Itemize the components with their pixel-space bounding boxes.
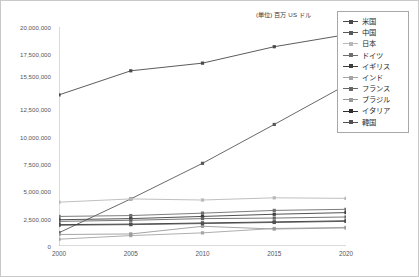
legend-item[interactable]: 日本 — [341, 38, 405, 49]
data-point — [344, 215, 346, 218]
y-tick-label: 12,500,000 — [20, 106, 51, 113]
legend-item[interactable]: 中国 — [341, 27, 405, 38]
legend-marker-icon — [343, 39, 358, 48]
data-point — [201, 217, 204, 220]
y-axis: 20,000,00017,500,00015,500,00012,500,000… — [1, 19, 56, 251]
legend-label: イギリス — [362, 63, 390, 70]
y-tick-label: 17,500,000 — [20, 51, 51, 58]
data-point — [59, 93, 61, 96]
series-line — [59, 35, 346, 95]
legend-item[interactable]: イタリア — [341, 106, 405, 117]
data-point — [201, 62, 204, 65]
x-tick-label: 2010 — [195, 250, 209, 257]
data-point — [201, 198, 204, 201]
legend-marker-icon — [343, 62, 358, 71]
plot-area — [59, 27, 346, 246]
legend-marker-icon — [343, 28, 358, 37]
legend-label: 韓国 — [362, 119, 376, 126]
x-axis: 20002005201020152020 — [59, 250, 346, 264]
data-point — [273, 216, 276, 219]
legend-item[interactable]: インド — [341, 72, 405, 83]
y-tick-label: 15,500,000 — [20, 73, 51, 80]
legend-item[interactable]: ドイツ — [341, 50, 405, 61]
plot-svg — [59, 27, 346, 246]
y-tick-label: 10,000,000 — [20, 133, 51, 140]
data-point — [344, 220, 346, 223]
data-point — [59, 238, 61, 241]
legend-item[interactable]: 米国 — [341, 16, 405, 27]
series-米国 — [59, 33, 346, 96]
data-point — [129, 197, 132, 200]
data-point — [273, 123, 276, 126]
data-point — [59, 215, 61, 218]
data-point — [344, 197, 346, 200]
data-point — [344, 226, 346, 229]
data-point — [59, 220, 61, 223]
data-point — [201, 225, 204, 228]
data-point — [129, 219, 132, 222]
data-point — [201, 162, 204, 165]
y-tick-label: 7,500,000 — [23, 160, 51, 167]
legend-label: 米国 — [362, 18, 376, 25]
data-point — [129, 214, 132, 217]
legend-label: インド — [362, 74, 383, 81]
data-point — [129, 223, 132, 226]
unit-caption: (単位) 百万 US ドル — [256, 10, 311, 19]
data-point — [273, 227, 276, 230]
legend: 米国中国日本ドイツイギリスインドフランスブラジルイタリア韓国 — [337, 11, 409, 133]
legend-label: フランス — [362, 85, 390, 92]
y-tick-label: 5,000,000 — [23, 188, 51, 195]
x-tick-label: 2020 — [339, 250, 353, 257]
legend-label: イタリア — [362, 107, 390, 114]
series-日本 — [59, 196, 346, 204]
data-point — [273, 209, 276, 212]
data-point — [344, 208, 346, 211]
data-point — [201, 222, 204, 225]
data-point — [273, 213, 276, 216]
x-tick-label: 2015 — [267, 250, 281, 257]
data-point — [201, 231, 204, 234]
x-tick-label: 2005 — [124, 250, 138, 257]
legend-marker-icon — [343, 95, 358, 104]
data-point — [129, 69, 132, 72]
series-インド — [59, 226, 346, 241]
data-point — [273, 196, 276, 199]
legend-marker-icon — [343, 118, 358, 127]
data-point — [59, 233, 61, 236]
legend-marker-icon — [343, 107, 358, 116]
legend-marker-icon — [343, 17, 358, 26]
x-tick-label: 2000 — [52, 250, 66, 257]
data-point — [201, 212, 204, 215]
legend-label: ブラジル — [362, 96, 390, 103]
legend-marker-icon — [343, 84, 358, 93]
data-point — [59, 201, 61, 204]
legend-item[interactable]: イギリス — [341, 61, 405, 72]
legend-label: 日本 — [362, 40, 376, 47]
data-point — [59, 224, 61, 227]
data-point — [273, 221, 276, 224]
legend-label: ドイツ — [362, 52, 383, 59]
series-line — [59, 85, 346, 233]
legend-item[interactable]: フランス — [341, 83, 405, 94]
legend-item[interactable]: 韓国 — [341, 117, 405, 128]
gdp-line-chart: (単位) 百万 US ドル 20,000,00017,500,00015,500… — [0, 0, 419, 277]
data-point — [129, 232, 132, 235]
data-point — [273, 45, 276, 48]
legend-label: 中国 — [362, 29, 376, 36]
legend-marker-icon — [343, 51, 358, 60]
y-tick-label: 20,000,000 — [20, 24, 51, 31]
y-tick-label: 2,500,000 — [23, 215, 51, 222]
data-point — [344, 211, 346, 214]
legend-marker-icon — [343, 73, 358, 82]
legend-item[interactable]: ブラジル — [341, 94, 405, 105]
y-tick-label: 0 — [48, 243, 51, 250]
